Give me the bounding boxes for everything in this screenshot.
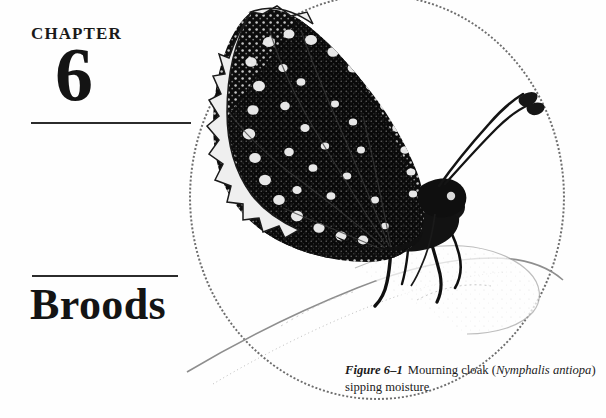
figure-species-name: Nymphalis antiopa [496,363,592,377]
figure-caption: Figure 6–1Mourning cloak (Nymphalis anti… [345,362,597,397]
head [418,179,467,218]
heading-rule-top [31,122,191,124]
figure-label: Figure 6–1 [345,363,403,377]
chapter-number: 6 [55,36,93,112]
heading-rule-bottom [32,275,178,277]
butterfly-illustration [185,0,565,400]
wings [185,0,565,300]
figure-caption-lead: Mourning cloak ( [408,363,496,377]
book-page: CHAPTER 6 Broods Figure 6–1Mourning cloa… [0,0,606,418]
antennae [439,92,545,186]
page-title: Broods [30,283,166,327]
